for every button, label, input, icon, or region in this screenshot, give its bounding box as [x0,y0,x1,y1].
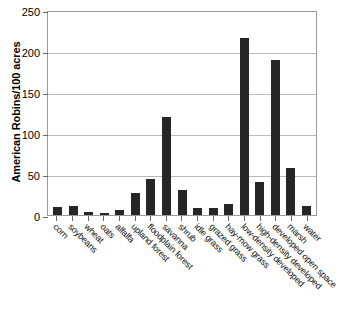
x-label-slot: oats [96,222,112,327]
x-label-slot: shrub [174,222,190,327]
bar-slot [128,12,144,215]
bar-chart: American Robins/100 acres 05010015020025… [0,0,340,331]
bar[interactable] [162,117,171,215]
x-tick-slot [65,216,81,221]
x-tick-slot [80,216,96,221]
x-tick-slot [237,216,253,221]
bar[interactable] [240,38,249,215]
x-label-slot: low-density developed [237,222,253,327]
bar[interactable] [302,206,311,215]
x-tick-mark [56,216,57,221]
bar-slot [97,12,113,215]
bar[interactable] [193,208,202,215]
plot-area: 050100150200250 [47,11,317,216]
x-tick-mark [213,216,214,221]
x-tick-label: water [301,222,323,244]
x-label-slot: upland forest [127,222,143,327]
bar[interactable] [53,207,62,215]
x-tick-slot [205,216,221,221]
y-axis-title: American Robins/100 acres [10,12,22,212]
bar-slot [299,12,315,215]
x-label-slot: savanna [158,222,174,327]
x-tick-mark [119,216,120,221]
x-tick-mark [260,216,261,221]
x-tick-slot [174,216,190,221]
bar-slot [190,12,206,215]
x-label-slot: alfalfa [112,222,128,327]
x-tick-mark [228,216,229,221]
x-label-slot: marsh [284,222,300,327]
bar-slot [66,12,82,215]
y-tick-label: 0 [34,211,40,223]
bar[interactable] [131,193,140,215]
bar[interactable] [224,204,233,215]
x-label-slot: wheat [80,222,96,327]
y-tick-label: 150 [22,88,40,100]
x-label-slot: idle grass [190,222,206,327]
x-tick-mark [135,216,136,221]
bar[interactable] [69,206,78,215]
x-label-slot: developed open space [268,222,284,327]
bar-slot [159,12,175,215]
x-tick-mark [197,216,198,221]
bar-slot [252,12,268,215]
bar-slot [143,12,159,215]
x-label-slot: soybeans [65,222,81,327]
bar[interactable] [115,210,124,215]
bar-slot [50,12,66,215]
bar[interactable] [286,168,295,215]
x-label-slot: high-density developed [252,222,268,327]
bar-slot [267,12,283,215]
x-label-slot: floodplain forest [143,222,159,327]
x-tick-slot [284,216,300,221]
x-tick-slot [221,216,237,221]
x-tick-slot [190,216,206,221]
x-tick-slot [49,216,65,221]
x-tick-slot [127,216,143,221]
x-tick-mark [150,216,151,221]
x-tick-slot [252,216,268,221]
bar-slot [205,12,221,215]
bar[interactable] [146,179,155,215]
x-tick-slot [112,216,128,221]
x-tick-slot [299,216,315,221]
bar[interactable] [178,190,187,215]
x-tick-mark [166,216,167,221]
bar[interactable] [100,213,109,215]
x-axis-ticks [47,216,317,221]
y-tick-label: 100 [22,129,40,141]
bar[interactable] [209,208,218,215]
x-tick-mark [275,216,276,221]
x-label-slot: water [299,222,315,327]
x-tick-slot [143,216,159,221]
bar-slot [283,12,299,215]
y-tick-label: 250 [22,6,40,18]
x-tick-mark [181,216,182,221]
bar-slot [174,12,190,215]
x-tick-slot [96,216,112,221]
x-tick-mark [307,216,308,221]
x-tick-slot [268,216,284,221]
y-tick-label: 50 [28,170,40,182]
bar-series [48,12,316,215]
bar-slot [112,12,128,215]
bar-slot [221,12,237,215]
x-label-slot: hay-mow grass [221,222,237,327]
x-tick-mark [244,216,245,221]
bar[interactable] [255,182,264,215]
bar[interactable] [84,212,93,215]
bar[interactable] [271,60,280,215]
x-tick-mark [88,216,89,221]
x-label-slot: corn [49,222,65,327]
x-tick-slot [158,216,174,221]
y-tick-label: 200 [22,47,40,59]
bar-slot [81,12,97,215]
x-axis-labels: cornsoybeanswheatoatsalfalfaupland fores… [47,222,317,327]
x-tick-mark [103,216,104,221]
bar-slot [236,12,252,215]
x-label-slot: grazed grass [205,222,221,327]
